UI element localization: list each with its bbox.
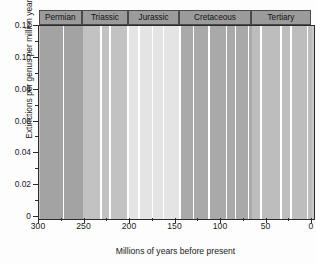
period-band-permian bbox=[40, 26, 83, 219]
period-label-triassic: Triassic bbox=[82, 10, 128, 25]
y-tick bbox=[33, 184, 38, 185]
x-tick-minor bbox=[197, 218, 198, 221]
x-tick-minor bbox=[61, 218, 62, 221]
epoch-divider bbox=[138, 26, 139, 219]
x-tick-minor bbox=[243, 218, 244, 221]
y-tick-minor bbox=[35, 105, 38, 106]
epoch-divider bbox=[127, 26, 128, 219]
epoch-divider bbox=[260, 26, 261, 219]
x-tick-label: 200 bbox=[115, 221, 143, 231]
epoch-divider bbox=[208, 26, 209, 219]
y-tick bbox=[33, 152, 38, 153]
geologic-period-header: PermianTriassicJurassicCretaceousTertiar… bbox=[38, 10, 313, 25]
epoch-divider bbox=[109, 26, 110, 219]
epoch-divider bbox=[100, 26, 101, 219]
epoch-divider bbox=[63, 26, 64, 219]
period-label-jurassic: Jurassic bbox=[128, 10, 179, 25]
epoch-divider bbox=[179, 26, 180, 219]
extinction-intensity-figure: PermianTriassicJurassicCretaceousTertiar… bbox=[0, 0, 316, 264]
y-tick bbox=[33, 216, 38, 217]
y-tick-minor bbox=[35, 200, 38, 201]
x-tick-minor bbox=[152, 218, 153, 221]
x-tick-label: 50 bbox=[252, 221, 280, 231]
epoch-divider bbox=[163, 26, 164, 219]
y-tick-label: 0.02 bbox=[0, 179, 31, 189]
y-axis-title: Extinctions per genus per million years bbox=[24, 0, 34, 152]
y-tick-minor bbox=[35, 73, 38, 74]
epoch-divider bbox=[193, 26, 194, 219]
x-axis-title: Millions of years before present bbox=[38, 246, 313, 256]
y-tick-minor bbox=[35, 41, 38, 42]
y-tick-minor bbox=[35, 168, 38, 169]
x-tick-label: 100 bbox=[206, 221, 234, 231]
epoch-divider bbox=[248, 26, 249, 219]
period-label-permian: Permian bbox=[39, 10, 82, 25]
x-tick-label: 300 bbox=[24, 221, 52, 231]
period-band-cretaceous bbox=[180, 26, 252, 219]
epoch-divider bbox=[280, 26, 281, 219]
x-tick-label: 150 bbox=[161, 221, 189, 231]
x-tick-label: 250 bbox=[70, 221, 98, 231]
x-tick-label: 0 bbox=[297, 221, 316, 231]
epoch-divider bbox=[235, 26, 236, 219]
x-tick-minor bbox=[288, 218, 289, 221]
plot-area bbox=[38, 25, 315, 220]
period-band-triassic bbox=[83, 26, 129, 219]
epoch-divider bbox=[226, 26, 227, 219]
epoch-divider bbox=[290, 26, 291, 219]
y-tick-label: 0 bbox=[0, 211, 31, 221]
period-band-jurassic bbox=[129, 26, 180, 219]
epoch-divider bbox=[307, 26, 308, 219]
period-label-cretaceous: Cretaceous bbox=[179, 10, 251, 25]
epoch-divider bbox=[152, 26, 153, 219]
period-label-tertiary: Tertiary bbox=[251, 10, 311, 25]
y-tick-minor bbox=[35, 136, 38, 137]
x-tick-minor bbox=[106, 218, 107, 221]
